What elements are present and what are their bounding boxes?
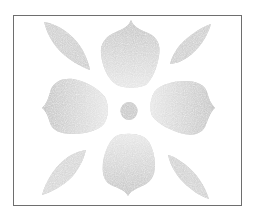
bottom-right-leaf [168,155,209,199]
left-petal [42,79,108,134]
center-dot [121,102,138,120]
top-left-leaf [44,22,90,70]
top-petal [101,20,160,88]
top-right-leaf [170,24,211,64]
bottom-petal [103,134,155,196]
right-petal [150,81,215,135]
stencil-artwork [0,0,253,217]
bottom-left-leaf [42,150,86,195]
